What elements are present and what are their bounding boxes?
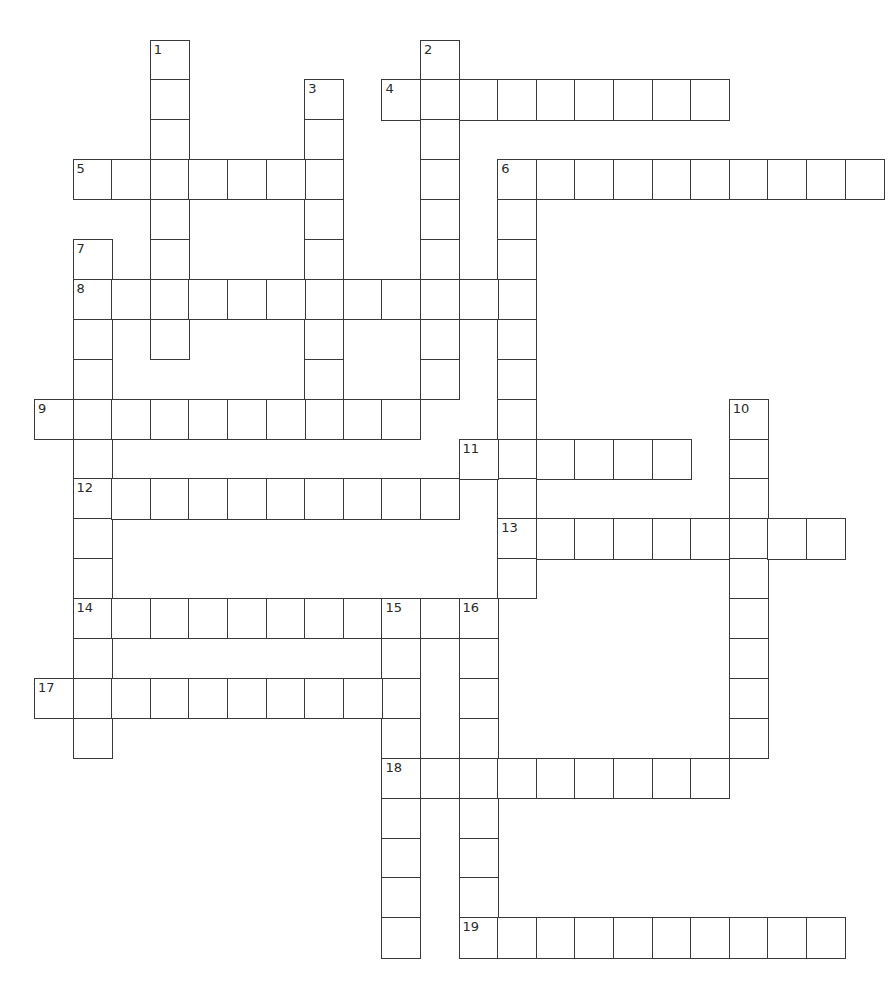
crossword-cell[interactable] — [497, 199, 537, 240]
crossword-cell[interactable] — [420, 239, 460, 280]
crossword-cell[interactable] — [459, 838, 499, 879]
crossword-cell[interactable] — [536, 518, 576, 559]
crossword-cell[interactable] — [73, 718, 113, 759]
crossword-cell[interactable] — [227, 279, 267, 320]
crossword-cell[interactable] — [806, 518, 846, 559]
crossword-cell[interactable] — [381, 718, 421, 759]
crossword-cell[interactable] — [381, 917, 421, 958]
crossword-cell[interactable] — [343, 478, 383, 519]
crossword-cell[interactable] — [304, 279, 344, 320]
crossword-cell[interactable]: 6 — [497, 159, 537, 200]
crossword-cell[interactable] — [343, 399, 383, 440]
crossword-cell[interactable] — [536, 439, 576, 480]
crossword-cell[interactable] — [150, 119, 190, 160]
crossword-cell[interactable] — [73, 399, 113, 440]
crossword-cell[interactable] — [459, 79, 499, 120]
crossword-cell[interactable] — [304, 359, 344, 400]
crossword-cell[interactable] — [652, 917, 692, 958]
crossword-cell[interactable] — [497, 279, 537, 320]
crossword-cell[interactable] — [266, 478, 306, 519]
crossword-cell[interactable] — [150, 319, 190, 360]
crossword-cell[interactable] — [613, 79, 653, 120]
crossword-cell[interactable]: 4 — [381, 79, 421, 120]
crossword-cell[interactable] — [111, 478, 151, 519]
crossword-cell[interactable] — [574, 917, 614, 958]
crossword-cell[interactable]: 13 — [497, 518, 537, 559]
crossword-cell[interactable] — [806, 917, 846, 958]
crossword-cell[interactable] — [729, 598, 769, 639]
crossword-cell[interactable]: 11 — [459, 439, 499, 480]
crossword-cell[interactable] — [420, 279, 460, 320]
crossword-cell[interactable] — [188, 478, 228, 519]
crossword-cell[interactable] — [227, 678, 267, 719]
crossword-cell[interactable] — [381, 279, 421, 320]
crossword-cell[interactable]: 8 — [73, 279, 113, 320]
crossword-cell[interactable] — [729, 558, 769, 599]
crossword-cell[interactable] — [150, 79, 190, 120]
crossword-cell[interactable] — [652, 159, 692, 200]
crossword-cell[interactable] — [729, 439, 769, 480]
crossword-cell[interactable] — [420, 79, 460, 120]
crossword-cell[interactable] — [150, 279, 190, 320]
crossword-cell[interactable] — [304, 199, 344, 240]
crossword-cell[interactable] — [304, 598, 344, 639]
crossword-cell[interactable] — [574, 758, 614, 799]
crossword-cell[interactable] — [150, 199, 190, 240]
crossword-cell[interactable] — [266, 678, 306, 719]
crossword-cell[interactable] — [150, 399, 190, 440]
crossword-cell[interactable]: 12 — [73, 478, 113, 519]
crossword-cell[interactable] — [73, 359, 113, 400]
crossword-cell[interactable] — [459, 279, 499, 320]
crossword-cell[interactable] — [497, 758, 537, 799]
crossword-cell[interactable] — [111, 279, 151, 320]
crossword-cell[interactable]: 7 — [73, 239, 113, 280]
crossword-cell[interactable] — [381, 798, 421, 839]
crossword-cell[interactable] — [150, 598, 190, 639]
crossword-cell[interactable] — [690, 159, 730, 200]
crossword-cell[interactable] — [459, 718, 499, 759]
crossword-cell[interactable] — [227, 478, 267, 519]
crossword-cell[interactable] — [381, 678, 421, 719]
crossword-cell[interactable] — [188, 399, 228, 440]
crossword-cell[interactable] — [304, 119, 344, 160]
crossword-cell[interactable] — [497, 399, 537, 440]
crossword-cell[interactable] — [767, 159, 807, 200]
crossword-cell[interactable] — [420, 159, 460, 200]
crossword-cell[interactable] — [459, 877, 499, 918]
crossword-cell[interactable] — [188, 159, 228, 200]
crossword-cell[interactable] — [497, 79, 537, 120]
crossword-cell[interactable]: 15 — [381, 598, 421, 639]
crossword-cell[interactable] — [729, 718, 769, 759]
crossword-cell[interactable] — [652, 439, 692, 480]
crossword-cell[interactable] — [150, 239, 190, 280]
crossword-cell[interactable] — [188, 598, 228, 639]
crossword-cell[interactable] — [574, 159, 614, 200]
crossword-cell[interactable] — [227, 598, 267, 639]
crossword-cell[interactable] — [266, 598, 306, 639]
crossword-cell[interactable] — [304, 239, 344, 280]
crossword-cell[interactable] — [690, 518, 730, 559]
crossword-cell[interactable] — [729, 478, 769, 519]
crossword-cell[interactable] — [806, 159, 846, 200]
crossword-cell[interactable] — [574, 518, 614, 559]
crossword-cell[interactable]: 16 — [459, 598, 499, 639]
crossword-cell[interactable] — [420, 199, 460, 240]
crossword-cell[interactable] — [613, 518, 653, 559]
crossword-cell[interactable]: 10 — [729, 399, 769, 440]
crossword-cell[interactable] — [729, 159, 769, 200]
crossword-cell[interactable] — [652, 518, 692, 559]
crossword-cell[interactable] — [73, 558, 113, 599]
crossword-cell[interactable]: 5 — [73, 159, 113, 200]
crossword-cell[interactable] — [613, 439, 653, 480]
crossword-cell[interactable] — [343, 279, 383, 320]
crossword-cell[interactable] — [767, 518, 807, 559]
crossword-cell[interactable] — [497, 319, 537, 360]
crossword-cell[interactable] — [497, 558, 537, 599]
crossword-cell[interactable] — [536, 917, 576, 958]
crossword-cell[interactable] — [459, 798, 499, 839]
crossword-cell[interactable] — [574, 439, 614, 480]
crossword-cell[interactable] — [420, 319, 460, 360]
crossword-cell[interactable]: 19 — [459, 917, 499, 958]
crossword-cell[interactable] — [729, 917, 769, 958]
crossword-cell[interactable] — [188, 678, 228, 719]
